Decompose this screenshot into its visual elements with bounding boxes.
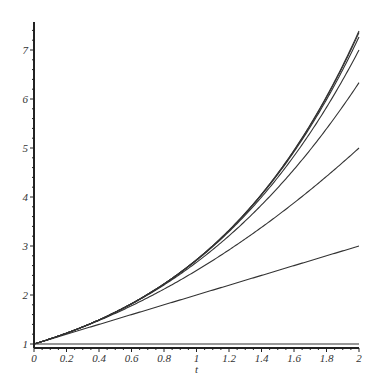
x-tick-label: 1.4 — [255, 352, 269, 364]
y-tick-label: 3 — [22, 240, 29, 252]
x-tick-label: 0.2 — [60, 352, 74, 364]
x-tick-label: 0.8 — [157, 352, 171, 364]
x-tick-label: 0 — [31, 352, 37, 364]
y-tick-label: 6 — [23, 93, 29, 105]
curves — [34, 31, 359, 344]
chart-plot: 123456700.20.40.60.811.21.41.61.82 t — [0, 0, 382, 390]
x-axis-label: t — [195, 363, 199, 375]
x-tick-label: 1.6 — [287, 352, 301, 364]
y-tick-label: 7 — [23, 44, 29, 56]
x-tick-label: 2 — [356, 352, 362, 364]
x-tick-label: 0.4 — [92, 352, 106, 364]
curve-taylor-degree-6 — [34, 33, 359, 344]
y-tick-label: 2 — [23, 289, 29, 301]
curve-taylor-degree-2 — [34, 148, 359, 344]
y-tick-label: 4 — [23, 191, 29, 203]
axes: 123456700.20.40.60.811.21.41.61.82 — [22, 22, 363, 364]
y-tick-label: 5 — [23, 142, 29, 154]
curve-taylor-degree-3 — [34, 83, 359, 344]
curve-exp — [34, 31, 359, 344]
x-tick-label: 1.8 — [320, 352, 334, 364]
x-tick-label: 1.2 — [222, 352, 236, 364]
y-tick-label: 1 — [23, 338, 29, 350]
curve-taylor-degree-4 — [34, 50, 359, 344]
x-tick-label: 0.6 — [125, 352, 139, 364]
